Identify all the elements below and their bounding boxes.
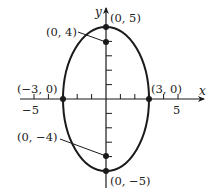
leader-line-focus-bottom (60, 139, 106, 156)
y-axis-label: y (94, 5, 102, 19)
point-covertex-right (146, 96, 152, 102)
x-axis-label: x (199, 84, 206, 98)
point-vertex-top (103, 24, 109, 30)
label-focus-top: (0, 4) (46, 25, 77, 39)
point-focus-top (103, 39, 109, 45)
x-tick-label-neg5: −5 (22, 103, 39, 117)
label-covertex-right: (3, 0) (151, 82, 182, 96)
label-covertex-left: (−3, 0) (17, 82, 58, 96)
point-focus-bottom (103, 153, 109, 159)
leader-line-focus-top (78, 32, 106, 42)
label-focus-bottom: (0, −4) (17, 130, 58, 144)
ellipse-diagram: x y −5 5 (0, 5) (0, 4) (−3, 0) (3, 0) (0… (0, 0, 215, 195)
point-covertex-left (60, 96, 66, 102)
x-tick-label-5: 5 (173, 103, 180, 117)
label-vertex-top: (0, 5) (110, 11, 141, 25)
label-vertex-bottom: (0, −5) (110, 174, 151, 188)
point-vertex-bottom (103, 168, 109, 174)
